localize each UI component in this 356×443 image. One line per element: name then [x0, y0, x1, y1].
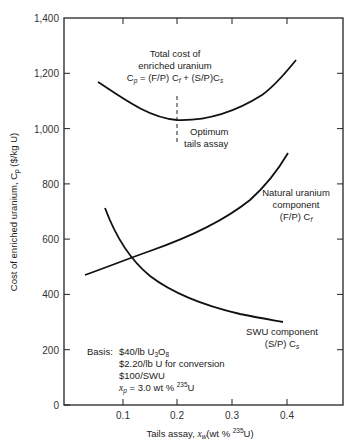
svg-text:xp = 3.0 wt % 235U: xp = 3.0 wt % 235U	[118, 381, 195, 395]
y-tick-labels: 0 200 400 600 800 1,000 1,200 1,400	[34, 13, 59, 411]
svg-text:$100/SWU: $100/SWU	[119, 370, 165, 381]
svg-text:SWU component: SWU component	[246, 326, 318, 337]
svg-text:component: component	[272, 199, 319, 210]
x-tick-label: 0.2	[170, 410, 184, 421]
svg-text:(F/P) Cf: (F/P) Cf	[280, 211, 314, 223]
svg-text:Natural uranium: Natural uranium	[262, 187, 330, 198]
svg-text:$2.20/lb U for conversion: $2.20/lb U for conversion	[119, 358, 225, 369]
total-cost-annotation: Total cost of enriched uranium Cp = (F/P…	[127, 48, 224, 85]
swu-component-curve	[105, 208, 283, 322]
x-tick-label: 0.3	[225, 410, 239, 421]
svg-text:Basis:: Basis:	[87, 346, 113, 357]
svg-text:Optimum: Optimum	[190, 126, 229, 137]
swu-component-annotation: SWU component (S/P) Cs	[246, 326, 318, 350]
y-tick-label: 600	[42, 234, 59, 245]
y-tick-label: 1,000	[34, 124, 59, 135]
y-tick-label: 800	[42, 179, 59, 190]
y-tick-label: 200	[42, 345, 59, 356]
svg-text:Cp = (F/P) Cf + (S/P)Cs: Cp = (F/P) Cf + (S/P)Cs	[127, 72, 224, 85]
svg-text:$40/lb U3O8: $40/lb U3O8	[119, 346, 169, 358]
natural-uranium-annotation: Natural uranium component (F/P) Cf	[262, 187, 330, 223]
svg-text:(S/P) Cs: (S/P) Cs	[265, 338, 300, 350]
svg-text:enriched uranium: enriched uranium	[138, 60, 211, 71]
basis-annotation: Basis: $40/lb U3O8 $2.20/lb U for conver…	[87, 346, 225, 395]
y-tick-label: 1,400	[34, 13, 59, 24]
x-tick-label: 0.4	[280, 410, 294, 421]
y-tick-label: 0	[53, 400, 59, 411]
y-axis-title: Cost of enriched uranium, Cp ($/kg U)	[8, 133, 21, 291]
x-tick-labels: 0.1 0.2 0.3 0.4	[116, 410, 294, 421]
x-axis-title: Tails assay, xw(wt % 235U)	[146, 427, 253, 440]
y-tick-label: 400	[42, 289, 59, 300]
svg-text:tails assay: tails assay	[184, 138, 229, 149]
y-tick-label: 1,200	[34, 68, 59, 79]
x-tick-label: 0.1	[116, 410, 130, 421]
optimum-annotation: Optimum tails assay	[184, 126, 229, 149]
chart-canvas: 0 200 400 600 800 1,000 1,200 1,400 0.1 …	[0, 0, 356, 443]
svg-text:Total cost of: Total cost of	[150, 48, 201, 59]
natural-uranium-curve	[85, 153, 288, 275]
